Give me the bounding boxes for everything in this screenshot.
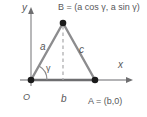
x-axis-label: x [118,60,123,70]
point-O-dot [28,77,35,84]
origin-label: O [23,93,30,102]
point-B-label: B = (a cos γ, a sin γ) [58,3,140,12]
point-B-dot [60,20,67,27]
geometry-figure: B = (a cos γ, a sin γ) A = (b,0) O b a c… [0,0,147,117]
side-c-label: c [79,45,84,55]
side-b-label: b [61,94,67,104]
angle-gamma-label: γ [46,64,51,73]
x-axis-arrowhead [126,77,133,83]
y-axis-label: y [22,3,27,13]
point-A-dot [92,77,99,84]
point-A-label: A = (b,0) [88,97,122,106]
side-a-label: a [40,42,46,52]
y-axis-arrowhead [28,7,34,14]
